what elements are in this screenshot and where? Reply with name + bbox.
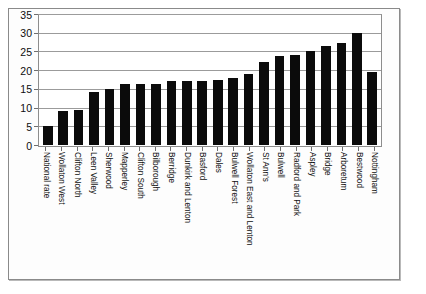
x-tick-slot [194, 147, 210, 151]
y-tick-label-30: 30 [20, 28, 32, 39]
x-tick-slot [335, 147, 351, 151]
x-tick-slot [163, 147, 179, 151]
bar-slot [210, 16, 225, 145]
x-tick-slot [241, 147, 257, 151]
x-label-slot: Bridge [320, 152, 336, 272]
x-label-slot: Arboretum [335, 152, 351, 272]
x-axis-category-label: Bulwell [276, 152, 284, 178]
x-axis-category-label: Aspley [308, 152, 316, 177]
x-tick-mark [327, 147, 328, 151]
x-axis-category-label: St Ann's [261, 152, 269, 182]
y-tick-label-15: 15 [20, 85, 32, 96]
bar-slot [303, 16, 318, 145]
x-tick-mark [342, 147, 343, 151]
x-tick-mark [264, 147, 265, 151]
x-tick-mark [170, 147, 171, 151]
x-tick-slot [351, 147, 367, 151]
x-tick-slot [304, 147, 320, 151]
x-tick-slot [147, 147, 163, 151]
x-tick-slot [38, 147, 54, 151]
y-tick-label-5: 5 [26, 122, 32, 133]
bar-slot [133, 16, 148, 145]
bar-slot [318, 16, 333, 145]
bar-slot [334, 16, 349, 145]
bar [89, 92, 99, 145]
gridline-35 [39, 14, 381, 15]
x-axis-category-label: Berridge [167, 152, 175, 183]
x-label-slot: Clifton North [69, 152, 85, 272]
x-label-slot: Aspley [304, 152, 320, 272]
x-tick-slot [257, 147, 273, 151]
x-tick-mark [92, 147, 93, 151]
x-tick-slot [366, 147, 382, 151]
x-tick-slot [210, 147, 226, 151]
x-tick-mark [45, 147, 46, 151]
x-tick-slot [320, 147, 336, 151]
x-label-slot: Dales [210, 152, 226, 272]
x-label-slot: Radford and Park [288, 152, 304, 272]
x-axis-category-label: Sherwood [104, 152, 112, 189]
x-label-slot: Clifton South [132, 152, 148, 272]
bar [105, 89, 115, 145]
bar [58, 111, 68, 145]
x-tick-mark [358, 147, 359, 151]
x-axis-category-label: National rate [42, 152, 50, 198]
x-axis-category-label: Nottingham [370, 152, 378, 194]
bar-slot [71, 16, 86, 145]
bar-slot [55, 16, 70, 145]
bar-slot [349, 16, 364, 145]
y-tick-label-20: 20 [20, 66, 32, 77]
x-label-slot: Leen Valley [85, 152, 101, 272]
x-label-slot: Sherwood [101, 152, 117, 272]
y-tick-label-25: 25 [20, 47, 32, 58]
bar [321, 46, 331, 145]
y-tick-label-10: 10 [20, 103, 32, 114]
x-label-slot: Berridge [163, 152, 179, 272]
plot-area-wrapper [38, 14, 382, 147]
x-tick-slot [226, 147, 242, 151]
x-tick-mark [155, 147, 156, 151]
x-label-slot: Bulwell Forest [226, 152, 242, 272]
x-label-slot: National rate [38, 152, 54, 272]
x-axis-category-label: Radford and Park [292, 152, 300, 216]
x-tick-slot [85, 147, 101, 151]
x-tick-slot [273, 147, 289, 151]
bar-slot [117, 16, 132, 145]
x-axis-category-label: Wollaton East and Lenton [245, 152, 253, 246]
x-tick-mark [61, 147, 62, 151]
x-tick-mark [202, 147, 203, 151]
x-tick-slot [132, 147, 148, 151]
bar [197, 81, 207, 145]
x-axis-category-label: Basford [198, 152, 206, 180]
x-tick-slot [116, 147, 132, 151]
bar [213, 80, 223, 146]
x-label-slot: Wollaton East and Lenton [241, 152, 257, 272]
x-tick-mark [374, 147, 375, 151]
chart-figure: 05101520253035 National rateWollaton Wes… [0, 0, 426, 294]
bar-slot [241, 16, 256, 145]
x-axis-category-label: Mapperley [120, 152, 128, 190]
x-tick-mark [108, 147, 109, 151]
x-axis-category-label: Dales [214, 152, 222, 173]
y-tick-label-0: 0 [26, 141, 32, 152]
x-axis-category-label: Arboretum [339, 152, 347, 190]
bar [337, 43, 347, 145]
bar-series [40, 16, 380, 145]
bar-slot [102, 16, 117, 145]
plot-area [38, 14, 382, 147]
bar-slot [40, 16, 55, 145]
bar-slot [148, 16, 163, 145]
x-axis-category-label: Dunkirk and Lenton [182, 152, 190, 223]
x-axis-category-label: Clifton North [73, 152, 81, 198]
bar [182, 81, 192, 145]
x-axis-ticks [38, 147, 382, 151]
bar [151, 84, 161, 145]
bar-slot [179, 16, 194, 145]
bar-slot [365, 16, 380, 145]
x-axis-category-label: Wollaton West [57, 152, 65, 204]
x-tick-mark [311, 147, 312, 151]
x-tick-mark [139, 147, 140, 151]
x-tick-mark [296, 147, 297, 151]
x-tick-mark [124, 147, 125, 151]
bar [120, 84, 130, 145]
